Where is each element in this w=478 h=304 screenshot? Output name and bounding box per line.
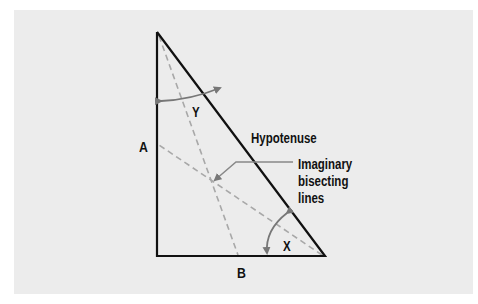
callout-line-1: Imaginary bbox=[298, 156, 352, 173]
callout-pointer-icon bbox=[215, 162, 293, 180]
angle-x-label: X bbox=[283, 239, 291, 253]
callout-line-2: bisecting bbox=[298, 173, 352, 190]
side-b-label: B bbox=[237, 265, 246, 280]
bisector-line-top bbox=[159, 36, 238, 255]
callout-line-3: lines bbox=[298, 190, 352, 207]
angle-y-arrow-icon bbox=[161, 88, 220, 101]
hypotenuse-label: Hypotenuse bbox=[251, 131, 317, 145]
triangle-diagram bbox=[0, 0, 478, 304]
bisecting-lines-callout: Imaginary bisecting lines bbox=[298, 156, 352, 207]
side-a-label: A bbox=[139, 139, 148, 154]
angle-y-label: Y bbox=[192, 105, 200, 119]
